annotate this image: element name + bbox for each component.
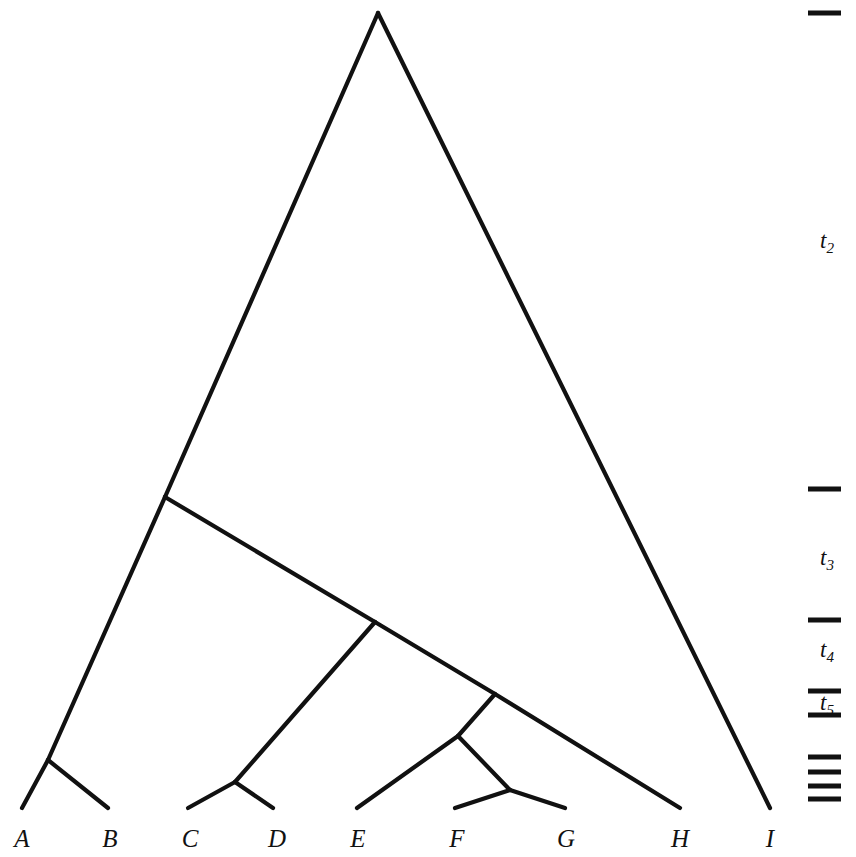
branch-cd-to-d bbox=[235, 782, 273, 808]
time-label-subscript: 2 bbox=[826, 239, 834, 256]
branch-t2-to-t3 bbox=[165, 497, 375, 622]
time-label-subscript: 3 bbox=[826, 556, 834, 573]
time-label-subscript: 5 bbox=[826, 701, 834, 718]
time-label-subscript: 4 bbox=[826, 648, 834, 665]
tip-label-b: B bbox=[90, 826, 130, 851]
tip-label-d: D bbox=[257, 826, 297, 851]
branch-t4-to-h bbox=[495, 694, 680, 808]
branch-t3-to-t4 bbox=[375, 622, 495, 694]
tree-canvas bbox=[0, 0, 856, 857]
tip-label-h: H bbox=[660, 826, 700, 851]
tip-label-e: E bbox=[338, 826, 378, 851]
branch-ab-to-a bbox=[22, 760, 48, 808]
branch-cd-to-c bbox=[188, 782, 235, 808]
time-scale-tick-group bbox=[808, 13, 841, 799]
tip-label-i: I bbox=[750, 826, 790, 851]
branch-fg-to-f bbox=[455, 790, 510, 808]
branch-t2-to-ab bbox=[48, 497, 165, 760]
branch-t4-to-t5 bbox=[458, 694, 495, 736]
branch-t5-to-e bbox=[357, 736, 458, 808]
branch-root-to-left bbox=[165, 13, 378, 497]
time-label-t5: t5 bbox=[799, 691, 855, 714]
branch-t5-to-fg bbox=[458, 736, 510, 790]
branch-group bbox=[22, 13, 770, 808]
tip-label-c: C bbox=[170, 826, 210, 851]
branch-root-to-i bbox=[378, 13, 770, 808]
phylogenetic-tree-figure: ABCDEFGHI t2t3t4t5 bbox=[0, 0, 856, 857]
tip-label-f: F bbox=[437, 826, 477, 851]
time-label-t4: t4 bbox=[799, 638, 855, 661]
time-label-t3: t3 bbox=[799, 546, 855, 569]
branch-fg-to-g bbox=[510, 790, 565, 808]
branch-ab-to-b bbox=[48, 760, 108, 808]
branch-t3-to-cd bbox=[235, 622, 375, 782]
time-label-t2: t2 bbox=[799, 229, 855, 252]
tip-label-g: G bbox=[546, 826, 586, 851]
tip-label-a: A bbox=[2, 826, 42, 851]
